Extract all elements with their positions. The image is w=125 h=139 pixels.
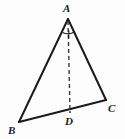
segment-ac <box>68 19 106 100</box>
vertex-label-a: A <box>63 3 70 14</box>
vertex-label-b: B <box>8 125 15 136</box>
triangle-diagram-svg <box>0 0 125 139</box>
vertex-label-c: C <box>108 103 115 114</box>
geometry-figure: A B C D <box>0 0 125 139</box>
segment-ab <box>19 19 68 122</box>
vertex-label-d: D <box>65 116 73 127</box>
point-d-marker <box>69 111 71 113</box>
segment-bc <box>19 100 106 122</box>
